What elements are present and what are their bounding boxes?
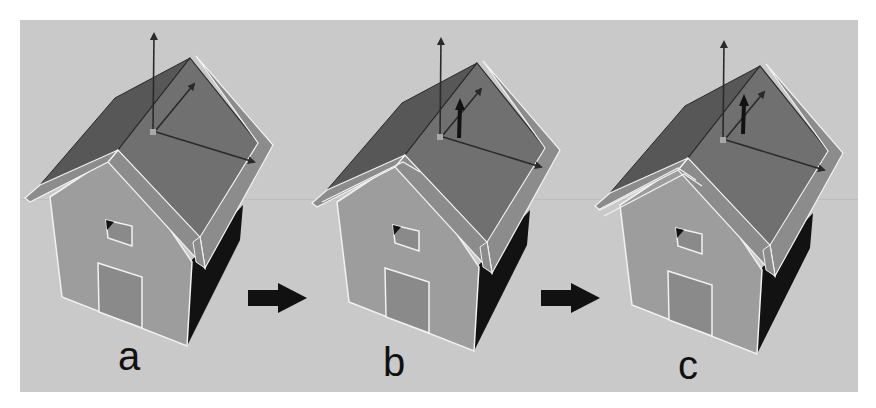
label-b: b [383,342,405,382]
step-arrow-a-to-b [248,283,307,313]
house-a [25,34,273,346]
thick-up-arrow-b [459,106,460,138]
house-b [312,39,560,351]
step-arrow-b-to-c [541,283,600,313]
label-c: c [678,345,698,385]
house-c [595,42,843,354]
label-a: a [118,336,140,376]
thick-up-arrow-c [743,102,744,134]
